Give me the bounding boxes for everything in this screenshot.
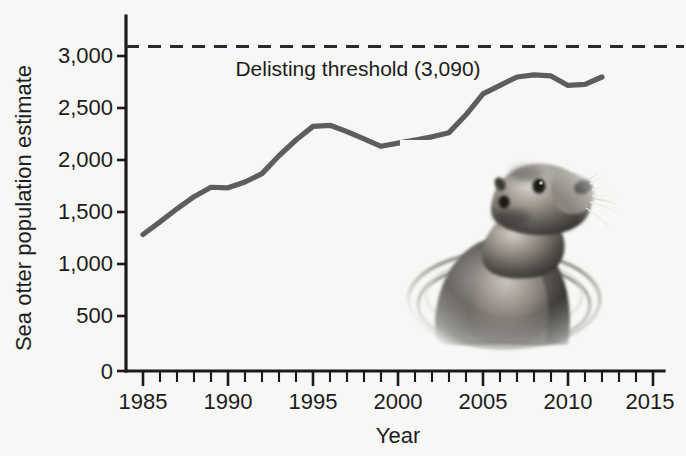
y-tick-label-3000: 3,000 xyxy=(58,43,113,68)
x-tick-label-1990: 1990 xyxy=(204,389,253,414)
chart-figure: Sea otter population estimate 3,000 2,50… xyxy=(0,0,686,456)
y-tick-label-2500: 2,500 xyxy=(58,95,113,120)
x-tick-label-2010: 2010 xyxy=(544,389,593,414)
y-tick-label-2000: 2,000 xyxy=(58,147,113,172)
x-tick-label-2015: 2015 xyxy=(626,389,675,414)
x-tick-label-1995: 1995 xyxy=(289,389,338,414)
y-axis-title: Sea otter population estimate xyxy=(11,65,36,351)
x-axis-title: Year xyxy=(376,423,420,448)
y-tick-label-1500: 1,500 xyxy=(58,199,113,224)
y-tick-label-500: 500 xyxy=(76,303,113,328)
x-tick-label-2000: 2000 xyxy=(374,389,423,414)
y-tick-label-0: 0 xyxy=(101,359,113,384)
chart-canvas: Sea otter population estimate 3,000 2,50… xyxy=(0,0,686,456)
delisting-threshold-label: Delisting threshold (3,090) xyxy=(235,57,480,80)
x-tick-label-1985: 1985 xyxy=(119,389,168,414)
y-tick-label-1000: 1,000 xyxy=(58,251,113,276)
x-tick-label-2005: 2005 xyxy=(459,389,508,414)
